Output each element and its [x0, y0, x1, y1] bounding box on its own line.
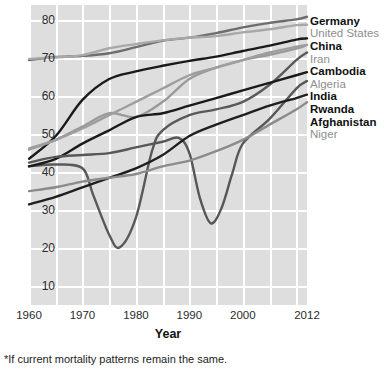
- legend-item-label: Algeria: [310, 78, 346, 91]
- legend-item-label: Cambodia: [310, 65, 366, 78]
- x-axis-tick-label: 2000: [223, 309, 263, 321]
- y-axis-tick-label: 70: [27, 52, 55, 64]
- y-axis-tick-label: 50: [27, 128, 55, 140]
- legend-item-label: Germany: [310, 15, 360, 28]
- series-lines: [29, 5, 307, 305]
- legend-item-label: Iran: [310, 53, 330, 66]
- legend-item-china[interactable]: China: [310, 40, 342, 53]
- legend-item-afghanistan[interactable]: Afghanistan: [310, 116, 376, 129]
- y-axis-tick-label: 10: [27, 280, 55, 292]
- x-axis-tick-label: 1960: [9, 309, 49, 321]
- legend-item-label: Afghanistan: [310, 116, 376, 129]
- legend-item-label: Rwanda: [310, 103, 354, 116]
- legend-item-label: India: [310, 90, 337, 103]
- life-expectancy-line-chart: 1020304050607080 19601970198019902000201…: [0, 0, 385, 375]
- y-axis-tick-label: 60: [27, 90, 55, 102]
- x-axis-title: Year: [29, 327, 307, 341]
- legend-item-india[interactable]: India: [310, 90, 337, 103]
- legend-item-label: Niger: [310, 128, 337, 141]
- legend-item-cambodia[interactable]: Cambodia: [310, 65, 366, 78]
- legend-item-algeria[interactable]: Algeria: [310, 78, 346, 91]
- legend-item-germany[interactable]: Germany: [310, 15, 360, 28]
- legend-item-iran[interactable]: Iran: [310, 53, 330, 66]
- legend-item-united-states[interactable]: United States: [310, 27, 379, 40]
- chart-footnote: *If current mortality patterns remain th…: [4, 353, 227, 365]
- x-axis-tick-label: 1990: [169, 309, 209, 321]
- y-axis-tick-label: 40: [27, 166, 55, 178]
- y-axis-tick-label: 30: [27, 204, 55, 216]
- legend-item-label: China: [310, 40, 342, 53]
- y-axis-tick-label: 80: [27, 14, 55, 26]
- x-axis-tick-label: 1980: [116, 309, 156, 321]
- x-axis-tick-label: 2012: [287, 309, 327, 321]
- x-axis-tick-label: 1970: [62, 309, 102, 321]
- legend-item-rwanda[interactable]: Rwanda: [310, 103, 354, 116]
- y-axis-tick-label: 20: [27, 242, 55, 254]
- legend-item-label: United States: [310, 27, 379, 40]
- plot-area: [29, 5, 307, 305]
- legend-item-niger[interactable]: Niger: [310, 128, 337, 141]
